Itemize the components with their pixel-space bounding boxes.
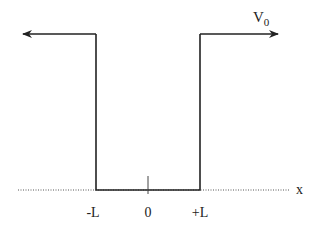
potential-label: V0 xyxy=(253,9,270,28)
square-well-diagram: V0 x -L 0 +L xyxy=(0,0,315,225)
well-outline xyxy=(96,34,200,190)
tick-label-minus-L: -L xyxy=(86,205,99,220)
x-axis-label: x xyxy=(296,182,303,197)
tick-label-plus-L: +L xyxy=(192,205,208,220)
tick-label-zero: 0 xyxy=(145,205,152,220)
